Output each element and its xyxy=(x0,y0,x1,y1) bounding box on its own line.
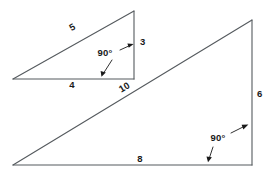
large-triangle-angle-leader-lower xyxy=(207,147,214,162)
small-triangle-angle-leader-upper xyxy=(120,44,134,50)
small-triangle-right-angle-label: 90° xyxy=(98,47,113,58)
small-triangle-hypotenuse-edge xyxy=(13,11,134,79)
large-triangle-vertical-leg-label: 6 xyxy=(257,88,262,99)
small-right-triangle: 5 3 4 90° xyxy=(13,11,145,90)
large-triangle-angle-leader-upper xyxy=(231,125,248,133)
small-triangle-vertical-leg-label: 3 xyxy=(140,36,145,47)
small-triangle-hypotenuse-label: 5 xyxy=(67,21,78,34)
small-triangle-horizontal-leg-label: 4 xyxy=(69,79,75,90)
large-triangle-horizontal-leg-label: 8 xyxy=(137,153,142,164)
large-right-triangle: 10 6 8 90° xyxy=(13,20,262,165)
geometry-diagram-canvas: 5 3 4 90° 10 xyxy=(0,0,270,180)
small-triangle-angle-leader-lower xyxy=(101,60,112,77)
figure-svg: 5 3 4 90° 10 xyxy=(0,0,270,180)
large-triangle-hypotenuse-label: 10 xyxy=(117,79,132,94)
large-triangle-right-angle-label: 90° xyxy=(211,132,226,143)
large-triangle-hypotenuse-edge xyxy=(13,20,252,165)
